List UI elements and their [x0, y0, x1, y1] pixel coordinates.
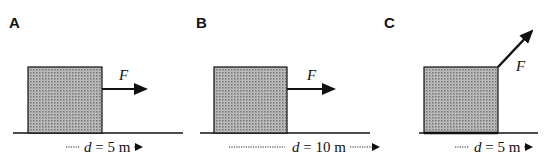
force-label: F: [515, 58, 526, 74]
distance-label: d = 5 m: [84, 139, 131, 155]
distance-value: = 5 m: [482, 139, 521, 155]
panel-label-b: B: [196, 14, 207, 31]
panel-a: A F d = 5 m: [9, 14, 183, 155]
block: [28, 67, 102, 133]
panel-label-a: A: [9, 14, 20, 31]
distance-value: = 10 m: [300, 139, 347, 155]
work-diagram: A F d = 5 m B F d = 10 m C F d = 5 m: [0, 0, 551, 163]
panel-b: B F d = 10 m: [196, 14, 378, 155]
block: [214, 67, 287, 133]
block: [424, 67, 498, 133]
distance-label: d = 5 m: [474, 139, 521, 155]
panel-label-c: C: [384, 14, 395, 31]
distance-value: = 5 m: [92, 139, 131, 155]
force-arrow-icon: [498, 31, 532, 67]
force-label: F: [118, 67, 129, 83]
force-label: F: [306, 67, 317, 83]
distance-label: d = 10 m: [292, 139, 346, 155]
panel-c: C F d = 5 m: [384, 14, 538, 155]
